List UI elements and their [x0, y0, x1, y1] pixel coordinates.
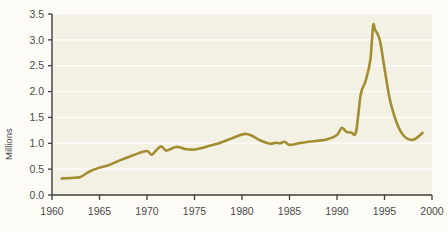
y-tick-label-3.5: 3.5	[29, 8, 44, 20]
x-tick-label-2000: 2000	[420, 205, 444, 217]
x-tick-label-1985: 1985	[278, 205, 302, 217]
y-tick-label-0.5: 0.5	[29, 163, 44, 175]
x-tick-label-1995: 1995	[373, 205, 397, 217]
y-tick-label-2.5: 2.5	[29, 59, 44, 71]
y-tick-label-2.0: 2.0	[29, 85, 44, 97]
x-axis-tick-labels: 196019651970197519801985199019952000	[40, 205, 444, 217]
x-tick-label-1965: 1965	[88, 205, 112, 217]
line-chart-svg: 0.00.51.01.52.02.53.03.5 196019651970197…	[0, 0, 448, 232]
x-tick-label-1990: 1990	[325, 205, 349, 217]
x-tick-label-1980: 1980	[230, 205, 254, 217]
x-axis-ticks	[52, 195, 432, 200]
x-tick-label-1970: 1970	[135, 205, 159, 217]
y-axis-title: Millions	[3, 128, 14, 160]
y-tick-label-3.0: 3.0	[29, 34, 44, 46]
y-tick-label-1.5: 1.5	[29, 111, 44, 123]
x-tick-label-1975: 1975	[183, 205, 207, 217]
x-tick-label-1960: 1960	[40, 205, 64, 217]
y-tick-label-0.0: 0.0	[29, 189, 44, 201]
chart-figure: 0.00.51.01.52.02.53.03.5 196019651970197…	[0, 0, 448, 232]
plot-area-background	[52, 14, 432, 195]
y-tick-label-1.0: 1.0	[29, 137, 44, 149]
y-axis-tick-labels: 0.00.51.01.52.02.53.03.5	[29, 8, 44, 201]
